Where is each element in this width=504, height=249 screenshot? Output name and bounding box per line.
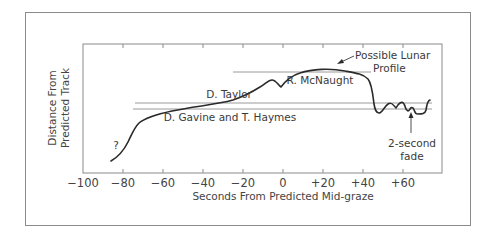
chart: −100 −80 −60 −40 −20 0 +20 +40 +60 Secon… [0, 0, 504, 249]
y-axis-title: Distance From Predicted Track [46, 67, 71, 148]
tick-label: +20 [311, 176, 335, 190]
tick-label: −60 [151, 176, 175, 190]
fade-label-line1: 2-second [388, 137, 436, 149]
uncertain-start-label: ? [113, 139, 119, 151]
y-axis-title-line1: Distance From [46, 70, 58, 145]
taylor-label: D. Taylor [206, 88, 252, 100]
profile-label-line1: Possible Lunar [355, 49, 431, 61]
gavine-haymes-label: D. Gavine and T. Haymes [164, 111, 297, 123]
tick-label: −40 [191, 176, 215, 190]
mcnaught-label: R. McNaught [287, 74, 354, 86]
tick-label: −20 [231, 176, 255, 190]
tick-label: −100 [67, 176, 99, 190]
tick-label: +40 [351, 176, 375, 190]
profile-arrow-icon [337, 59, 344, 64]
bottom-ticks [123, 169, 403, 173]
profile-label-line2: Profile [373, 62, 406, 74]
tick-label: 0 [279, 176, 286, 190]
tick-label: −80 [111, 176, 135, 190]
x-axis-title: Seconds From Predicted Mid-graze [192, 190, 373, 202]
y-axis-title-line2: Predicted Track [59, 67, 71, 148]
top-ticks [123, 44, 403, 48]
fade-arrow-icon [409, 112, 414, 118]
fade-label-line2: fade [400, 150, 423, 162]
tick-label: +60 [391, 176, 415, 190]
x-tick-labels: −100 −80 −60 −40 −20 0 +20 +40 +60 [67, 176, 415, 190]
